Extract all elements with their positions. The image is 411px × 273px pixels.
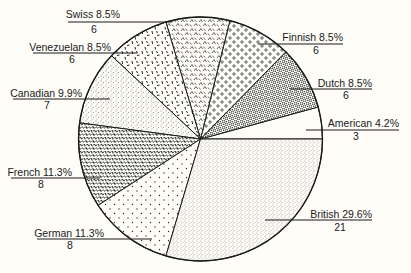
label-count: 6 xyxy=(91,23,97,35)
label-count: 8 xyxy=(38,178,44,190)
label-title: Venezuelan 8.5% xyxy=(29,41,111,53)
label-title: French 11.3% xyxy=(7,166,72,178)
label-title: Dutch 8.5% xyxy=(318,77,372,89)
label-count: 7 xyxy=(44,99,50,111)
pie-chart: American 4.2%3Dutch 8.5%6Finnish 8.5%6Sw… xyxy=(0,0,411,273)
label-title: American 4.2% xyxy=(328,117,399,129)
label-title: German 11.3% xyxy=(34,227,104,239)
label-count: 3 xyxy=(353,130,359,142)
label-count: 6 xyxy=(313,44,319,56)
label-title: Canadian 9.9% xyxy=(10,87,82,99)
pie-slices xyxy=(78,17,322,261)
label-title: British 29.6% xyxy=(310,208,372,220)
label-count: 6 xyxy=(343,89,349,101)
label-count: 8 xyxy=(67,239,73,251)
label-title: Swiss 8.5% xyxy=(66,8,120,20)
label-count: 6 xyxy=(69,53,75,65)
label-title: Finnish 8.5% xyxy=(282,31,343,43)
label-count: 21 xyxy=(334,221,346,233)
